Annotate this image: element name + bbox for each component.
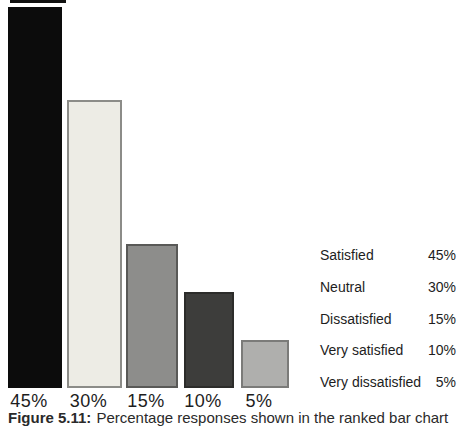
bar-dissatisfied [126, 244, 178, 388]
bar-neutral [67, 100, 122, 388]
figure-caption: Figure 5.11:Percentage responses shown i… [8, 409, 448, 426]
legend-value: 15% [428, 311, 456, 327]
bar-satisfied [8, 7, 62, 388]
figure-caption-number: Figure 5.11: [8, 409, 91, 426]
legend-row-very-satisfied: Very satisfied10% [320, 342, 456, 358]
legend-row-dissatisfied: Dissatisfied15% [320, 311, 456, 327]
legend-value: 30% [428, 279, 456, 295]
legend-label: Dissatisfied [320, 311, 392, 327]
legend-row-very-dissatisfied: Very dissatisfied5% [320, 374, 456, 390]
legend-label: Very satisfied [320, 342, 403, 358]
legend-label: Very dissatisfied [320, 374, 421, 390]
legend-value: 45% [428, 247, 456, 263]
legend-value: 10% [428, 342, 456, 358]
legend-row-neutral: Neutral30% [320, 279, 456, 295]
scan-artifact-strip [10, 0, 66, 3]
figure-caption-text: Percentage responses shown in the ranked… [96, 409, 448, 426]
legend-value: 5% [436, 374, 456, 390]
bar-very-dissatisfied [241, 340, 289, 388]
bar-very-satisfied [184, 292, 234, 388]
legend-row-satisfied: Satisfied45% [320, 247, 456, 263]
legend-label: Satisfied [320, 247, 374, 263]
legend-label: Neutral [320, 279, 365, 295]
